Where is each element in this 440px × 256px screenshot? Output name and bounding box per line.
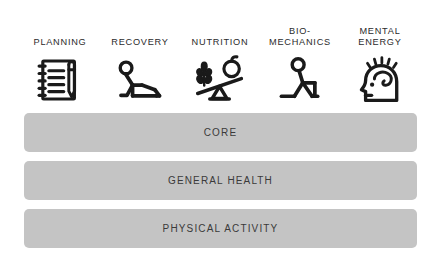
pillar-label-nutrition: NUTRITION xyxy=(192,37,249,48)
pillar-label-mental-energy: MENTAL ENERGY xyxy=(358,26,401,48)
balance-wheat-apple-icon xyxy=(192,52,248,108)
pillar-label-recovery: RECOVERY xyxy=(111,37,168,48)
pillar-nutrition[interactable]: NUTRITION xyxy=(182,10,258,108)
pillar-planning[interactable]: PLANNING xyxy=(22,10,98,108)
pillar-recovery[interactable]: RECOVERY xyxy=(102,10,178,108)
layer-bar-physical-activity[interactable]: PHYSICAL ACTIVITY xyxy=(24,209,417,248)
layer-label-physical-activity: PHYSICAL ACTIVITY xyxy=(163,223,279,234)
pillar-label-planning: PLANNING xyxy=(34,37,87,48)
foundation-layers: CORE GENERAL HEALTH PHYSICAL ACTIVITY xyxy=(24,113,417,248)
layer-bar-core[interactable]: CORE xyxy=(24,113,417,152)
person-lunge-stretch-icon xyxy=(272,52,328,108)
pillar-row: PLANNING xyxy=(22,10,418,108)
layer-bar-general-health[interactable]: GENERAL HEALTH xyxy=(24,161,417,200)
pillars-foundation-diagram: PLANNING xyxy=(0,0,440,256)
person-reclining-lounger-icon xyxy=(112,52,168,108)
pillar-biomechanics[interactable]: BIO- MECHANICS xyxy=(262,10,338,108)
pillar-label-biomechanics: BIO- MECHANICS xyxy=(269,26,331,48)
layer-label-core: CORE xyxy=(204,127,238,138)
layer-label-general-health: GENERAL HEALTH xyxy=(168,175,273,186)
head-brain-energy-icon xyxy=(352,52,408,108)
pillar-mental-energy[interactable]: MENTAL ENERGY xyxy=(342,10,418,108)
notebook-pencil-icon xyxy=(32,52,88,108)
